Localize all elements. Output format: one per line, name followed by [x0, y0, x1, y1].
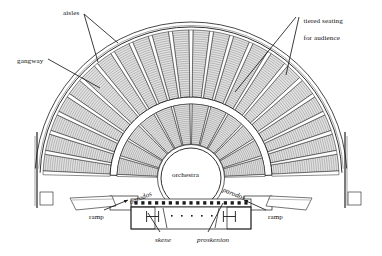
theatre-plan-figure: aisles tiered seating for audience gangw…	[0, 0, 382, 256]
label-aisles: aisles	[63, 9, 79, 17]
label-gangway: gangway	[17, 57, 43, 65]
label-proskenion: proskenion	[197, 236, 229, 244]
label-tiered-seating: tiered seating for audience	[296, 8, 343, 51]
label-tiered-seating-line2: for audience	[304, 34, 340, 42]
label-orchestra: orchestra	[172, 171, 199, 179]
label-tiered-seating-line1: tiered seating	[304, 17, 343, 25]
label-ramp-right: ramp	[268, 213, 283, 221]
label-ramp-left: ramp	[89, 213, 104, 221]
label-skene: skene	[155, 236, 171, 244]
analemma-wall-right	[345, 132, 361, 208]
